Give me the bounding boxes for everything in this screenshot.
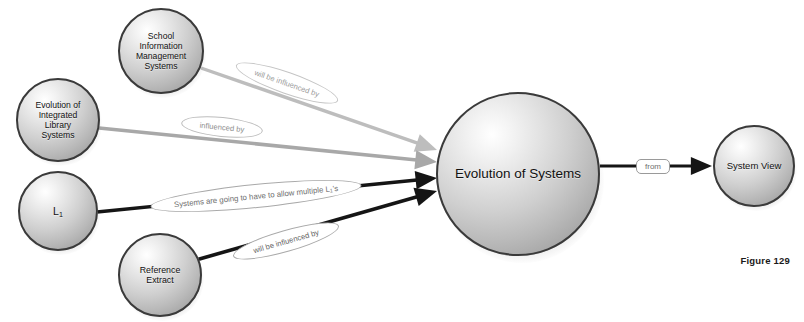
edge-arrowhead	[414, 150, 437, 169]
edge-arrowhead	[415, 171, 437, 189]
node-evolution-of-integrated-library-systems[interactable]: Evolution of Integrated Library Systems	[16, 78, 100, 162]
node-label: L1	[47, 205, 69, 217]
node-label: School Information Management Systems	[130, 31, 192, 72]
node-label: System View	[721, 160, 788, 171]
edge-arrowhead	[413, 188, 437, 206]
edge-eils-to-evolution	[99, 128, 437, 169]
node-evolution-of-systems[interactable]: Evolution of Systems	[436, 92, 600, 256]
node-system-view[interactable]: System View	[713, 125, 795, 207]
figure-canvas: School Information Management SystemsEvo…	[0, 0, 804, 322]
figure-caption: Figure 129	[740, 255, 790, 266]
node-label: Reference Extract	[134, 265, 187, 286]
node-label: Evolution of Systems	[449, 166, 587, 182]
node-label: Evolution of Integrated Library Systems	[30, 100, 87, 141]
node-reference-extract[interactable]: Reference Extract	[118, 233, 202, 317]
edge-sims-to-evolution	[201, 68, 437, 152]
node-school-information-management-systems[interactable]: School Information Management Systems	[118, 8, 204, 94]
edge-arrowhead	[691, 157, 712, 175]
edge-arrowhead	[414, 134, 437, 151]
edge-label-text: influenced by	[199, 120, 244, 133]
node-l1[interactable]: L1	[18, 171, 98, 251]
edge-label-text: from	[645, 162, 661, 171]
edge-label-evolution-to-system-view: from	[636, 159, 670, 174]
